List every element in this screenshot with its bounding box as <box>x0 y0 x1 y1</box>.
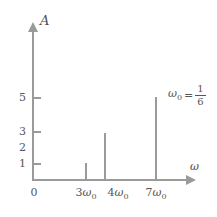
annotation-denominator: 6 <box>195 96 205 107</box>
annotation-numerator: 1 <box>195 84 205 95</box>
y-axis-label: A <box>40 13 49 28</box>
annotation-fraction: 1 6 <box>195 84 205 107</box>
y-tick-mark-1 <box>34 163 41 165</box>
x-tick-7omega0-coefficient: 7 <box>145 186 152 199</box>
x-axis-label: ω <box>190 160 199 173</box>
x-tick-label-7omega0: 7ω0 <box>145 187 166 203</box>
bar-7omega0 <box>155 97 157 180</box>
x-tick-label-origin: 0 <box>31 187 38 199</box>
amplitude-spectrum-chart: A ω 1 2 3 5 0 3ω0 4ω0 7ω0 ω0 = 1 6 <box>0 0 217 217</box>
y-axis-line <box>32 30 34 181</box>
x-axis-arrow-icon <box>186 175 196 185</box>
x-tick-3omega0-subscript: 0 <box>91 192 96 201</box>
annotation-equals: = <box>184 90 193 101</box>
annotation-subscript: 0 <box>177 94 182 103</box>
y-tick-label-2: 2 <box>6 142 26 153</box>
x-tick-4omega0-subscript: 0 <box>123 192 128 201</box>
annotation-symbol: ω0 <box>168 88 182 102</box>
bar-3omega0 <box>85 163 87 180</box>
y-tick-label-3: 3 <box>6 126 26 137</box>
y-axis-arrow-icon <box>28 22 38 32</box>
x-tick-4omega0-coefficient: 4 <box>107 186 114 199</box>
y-tick-label-1-wrap: 1 <box>0 158 26 169</box>
omega0-value-annotation: ω0 = 1 6 <box>168 84 206 107</box>
x-tick-label-3omega0: 3ω0 <box>75 187 96 203</box>
x-tick-3omega0-symbol: ω <box>82 186 91 199</box>
y-tick-label-5: 5 <box>6 92 26 103</box>
y-tick-label-1: 1 <box>6 158 26 169</box>
x-tick-label-4omega0: 4ω0 <box>107 187 128 203</box>
annotation-omega-symbol: ω <box>168 87 177 100</box>
y-tick-label-3-wrap: 3 <box>0 126 26 137</box>
x-tick-3omega0-coefficient: 3 <box>75 186 82 199</box>
y-tick-label-5-wrap: 5 <box>0 92 26 103</box>
bar-4omega0 <box>104 133 106 180</box>
x-tick-7omega0-symbol: ω <box>152 186 161 199</box>
y-tick-mark-5 <box>34 97 41 99</box>
x-tick-4omega0-symbol: ω <box>114 186 123 199</box>
y-tick-label-2-wrap: 2 <box>0 142 26 153</box>
y-tick-mark-3 <box>34 131 41 133</box>
x-tick-7omega0-subscript: 0 <box>161 192 166 201</box>
x-axis-line <box>32 179 188 181</box>
